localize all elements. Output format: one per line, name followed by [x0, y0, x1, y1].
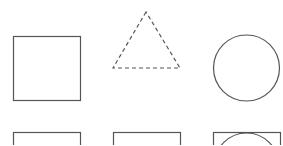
circle-top-right — [214, 35, 280, 101]
square-bottom-middle — [114, 133, 181, 146]
circle-bottom-right-inscribed — [215, 133, 279, 145]
square-bottom-left — [14, 133, 81, 146]
shapes-diagram — [0, 0, 283, 145]
triangle-top-middle — [113, 12, 180, 68]
shapes-canvas — [0, 0, 283, 145]
square-top-left — [14, 37, 81, 101]
